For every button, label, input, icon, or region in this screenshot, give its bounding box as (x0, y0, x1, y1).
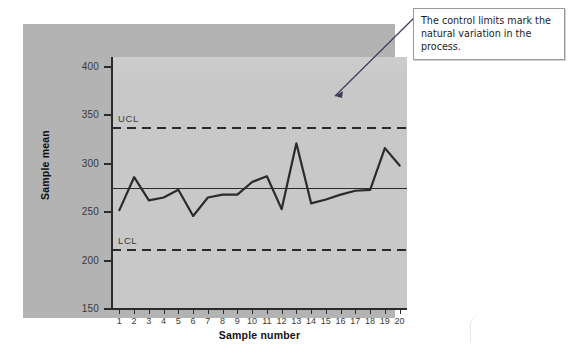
y-tick-400 (104, 66, 111, 68)
x-tick-label-10: 10 (244, 316, 260, 326)
y-tick-label-text: 150 (67, 303, 99, 314)
x-tick-label-7: 7 (200, 316, 216, 326)
callout-box: The control limits mark the natural vari… (413, 8, 565, 60)
x-tick-label-8: 8 (215, 316, 231, 326)
y-tick-label-300: 300 (67, 158, 99, 170)
callout-line-2: natural variation in the process. (421, 27, 558, 53)
x-tick-label-1: 1 (111, 316, 127, 326)
control-chart-figure: 400350300250200150 123456789101112131415… (0, 0, 577, 353)
x-tick-label-9: 9 (229, 316, 245, 326)
y-tick-350 (104, 114, 111, 116)
x-tick-label-15: 15 (318, 316, 334, 326)
y-tick-label-350: 350 (67, 109, 99, 121)
x-tick-label-11: 11 (259, 316, 275, 326)
y-tick-label-text: 350 (67, 109, 99, 120)
x-tick-label-17: 17 (347, 316, 363, 326)
y-tick-label-text: 250 (67, 206, 99, 217)
x-tick-label-16: 16 (333, 316, 349, 326)
y-tick-250 (104, 211, 111, 213)
y-tick-200 (104, 260, 111, 262)
y-tick-300 (104, 163, 111, 165)
x-tick-label-2: 2 (126, 316, 142, 326)
x-axis-title: Sample number (112, 329, 407, 341)
x-tick-label-12: 12 (274, 316, 290, 326)
x-tick-label-4: 4 (156, 316, 172, 326)
x-tick-label-13: 13 (288, 316, 304, 326)
y-tick-label-text: 200 (67, 255, 99, 266)
x-tick-label-20: 20 (392, 316, 408, 326)
y-tick-label-250: 250 (67, 206, 99, 218)
y-tick-label-200: 200 (67, 255, 99, 267)
y-tick-label-text: 300 (67, 158, 99, 169)
callout-line-1: The control limits mark the (421, 14, 558, 27)
y-tick-label-text: 400 (67, 61, 99, 72)
callout-leader-line (330, 8, 420, 103)
x-tick-label-6: 6 (185, 316, 201, 326)
x-tick-label-3: 3 (141, 316, 157, 326)
x-tick-label-18: 18 (362, 316, 378, 326)
page-artifact (470, 312, 497, 342)
y-tick-label-150: 150 (67, 303, 99, 315)
x-tick-label-5: 5 (170, 316, 186, 326)
x-tick-label-19: 19 (377, 316, 393, 326)
x-tick-label-14: 14 (303, 316, 319, 326)
y-tick-label-400: 400 (67, 61, 99, 73)
y-tick-150 (104, 308, 111, 310)
y-axis-title: Sample mean (39, 115, 51, 215)
